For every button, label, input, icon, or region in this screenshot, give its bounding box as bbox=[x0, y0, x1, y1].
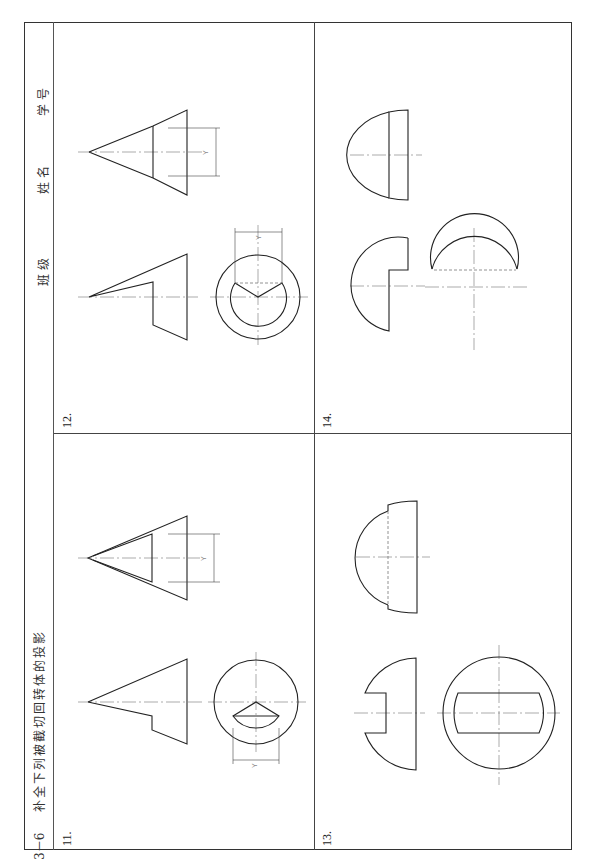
panel-divider-horizontal bbox=[54, 433, 572, 434]
field-class-label: 班级 bbox=[34, 254, 51, 286]
panel-14-number: 14. bbox=[320, 413, 335, 428]
field-student-id-label: 学号 bbox=[34, 84, 51, 116]
field-name-label: 姓名 bbox=[34, 162, 51, 194]
panel-12-number: 12. bbox=[60, 413, 75, 428]
section-number: 3－6 bbox=[30, 833, 47, 860]
panel-11-number: 11. bbox=[60, 831, 75, 846]
panel-13-number: 13. bbox=[320, 831, 335, 846]
panel-divider-vertical bbox=[314, 22, 315, 850]
page-frame bbox=[24, 22, 572, 850]
page-title: 补全下列被截切回转体的投影 bbox=[30, 630, 47, 812]
